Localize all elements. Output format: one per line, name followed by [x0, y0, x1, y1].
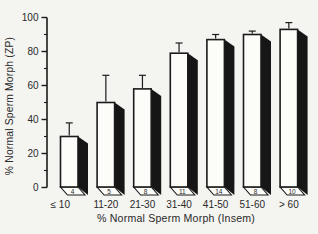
bar-group: 851-60: [239, 31, 271, 210]
bar-side-shadow: [261, 35, 271, 196]
x-axis-title: % Normal Sperm Morph (Insem): [97, 212, 255, 224]
x-tick-label: > 60: [279, 199, 299, 210]
bar-side-shadow: [298, 29, 308, 195]
x-tick-label: 51-60: [239, 199, 265, 210]
bar-front-face: [244, 35, 262, 188]
bar-side-shadow: [188, 53, 198, 195]
bar-group: 4≤ 10: [51, 123, 88, 210]
bar-group: 1131-40: [166, 43, 198, 210]
bar-front-face: [97, 103, 115, 188]
bar-count-label: 8: [254, 188, 258, 195]
bar-group: 1441-50: [203, 35, 235, 211]
bar-count-label: 11: [179, 188, 186, 195]
bar-front-face: [61, 137, 79, 188]
x-tick-label: 41-50: [203, 199, 229, 210]
bar-count-label: 5: [107, 188, 111, 195]
y-axis-title: % Normal Sperm Morph (ZP): [4, 37, 15, 175]
bar-count-label: 4: [71, 188, 75, 195]
bar-group: 821-30: [130, 75, 162, 210]
y-axis: 020406080100: [22, 12, 47, 193]
bar-front-face: [207, 40, 225, 187]
y-tick-label: 0: [33, 182, 39, 193]
y-tick-label: 20: [27, 148, 39, 159]
y-tick-label: 60: [27, 80, 39, 91]
bar-side-shadow: [115, 103, 125, 196]
bar-front-face: [134, 89, 152, 187]
chart-canvas: 020406080100 4≤ 10511-20821-301131-40144…: [0, 0, 318, 234]
bar-count-label: 10: [288, 188, 296, 195]
y-tick-label: 100: [22, 12, 39, 23]
bar-front-face: [170, 53, 188, 187]
bar-group: 10> 60: [279, 23, 308, 210]
y-tick-label: 80: [27, 46, 39, 57]
bar-group: 511-20: [93, 75, 124, 210]
bar-count-label: 14: [215, 188, 223, 195]
x-tick-label: 21-30: [130, 199, 156, 210]
bar-count-label: 8: [144, 188, 148, 195]
bars-group: 4≤ 10511-20821-301131-401441-50851-6010>…: [51, 23, 308, 210]
bar-chart-figure: 020406080100 4≤ 10511-20821-301131-40144…: [0, 0, 318, 234]
x-tick-label: ≤ 10: [51, 199, 71, 210]
bar-side-shadow: [78, 137, 88, 196]
bar-side-shadow: [224, 40, 234, 195]
y-tick-label: 40: [27, 114, 39, 125]
x-tick-label: 11-20: [93, 199, 118, 210]
bar-side-shadow: [151, 89, 161, 195]
x-tick-label: 31-40: [166, 199, 192, 210]
bar-front-face: [280, 29, 298, 187]
